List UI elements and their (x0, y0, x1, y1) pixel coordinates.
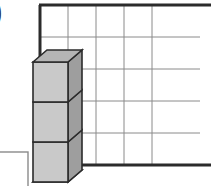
isometric-diagram (0, 0, 211, 186)
cube-front-face (33, 102, 68, 142)
figure-canvas: ) (0, 0, 211, 186)
cube-front-face (33, 62, 68, 102)
partial-answer-box (0, 152, 28, 186)
part-label-glyph: ) (0, 0, 2, 28)
cube-front-face (33, 142, 68, 182)
